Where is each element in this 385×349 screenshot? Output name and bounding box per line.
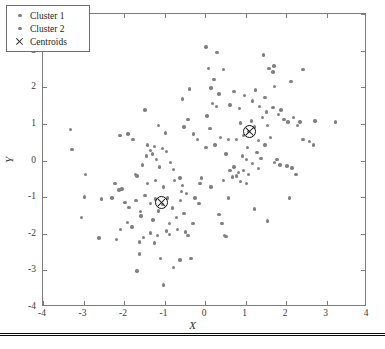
- data-point: [278, 163, 281, 166]
- data-point: [250, 119, 253, 122]
- data-point: [134, 199, 137, 202]
- data-point: [232, 165, 235, 168]
- data-point: [70, 148, 73, 151]
- data-point: [273, 161, 276, 164]
- x-tick: [286, 14, 287, 18]
- plot-area: [42, 13, 366, 306]
- x-tick: [327, 301, 328, 305]
- data-point: [215, 105, 218, 108]
- data-point: [181, 184, 184, 187]
- y-tick: [43, 87, 47, 88]
- data-point: [308, 140, 311, 143]
- data-point: [200, 176, 203, 179]
- data-point: [282, 118, 285, 121]
- data-point: [162, 283, 165, 286]
- y-tick: [361, 161, 365, 162]
- x-tick-label: 0: [202, 308, 207, 318]
- data-point: [135, 269, 138, 272]
- x-tick-label: 1: [242, 308, 247, 318]
- data-point: [239, 180, 242, 183]
- data-point: [165, 229, 168, 232]
- y-tick: [43, 124, 47, 125]
- data-point: [153, 145, 156, 148]
- y-tick: [43, 270, 47, 271]
- data-point: [196, 138, 199, 141]
- y-tick-label: -4: [14, 301, 36, 311]
- y-axis-label: Y: [3, 157, 15, 163]
- legend: Cluster 1 Cluster 2 Centroids: [6, 5, 90, 52]
- data-point: [182, 125, 185, 128]
- x-tick: [84, 301, 85, 305]
- x-tick: [124, 14, 125, 18]
- data-point: [84, 173, 87, 176]
- data-point: [262, 53, 265, 56]
- x-tick-label: 2: [283, 308, 288, 318]
- data-point: [184, 230, 187, 233]
- x-tick-label: -2: [119, 308, 127, 318]
- data-point: [301, 138, 304, 141]
- data-point: [263, 96, 266, 99]
- x-tick: [327, 14, 328, 18]
- data-point: [224, 235, 227, 238]
- data-point: [69, 128, 72, 131]
- data-point: [162, 185, 165, 188]
- data-point: [186, 234, 189, 237]
- data-point: [208, 127, 211, 130]
- data-point: [119, 228, 122, 231]
- data-point: [138, 240, 141, 243]
- data-point: [178, 176, 181, 179]
- data-point: [171, 206, 174, 209]
- data-point: [258, 105, 261, 108]
- cluster-2-marker-icon: [10, 22, 30, 35]
- legend-label-cluster-1: Cluster 1: [30, 11, 65, 21]
- y-tick-label: 0: [14, 155, 36, 165]
- data-point: [191, 222, 194, 225]
- data-point: [286, 120, 289, 123]
- data-point: [146, 143, 149, 146]
- data-point: [197, 202, 200, 205]
- data-point: [131, 138, 134, 141]
- data-point: [266, 124, 269, 127]
- data-point: [180, 190, 183, 193]
- data-point: [290, 166, 293, 169]
- data-point: [273, 85, 276, 88]
- bottom-divider: [0, 333, 385, 336]
- x-tick: [205, 14, 206, 18]
- data-point: [143, 194, 146, 197]
- data-point: [275, 158, 278, 161]
- data-point: [228, 169, 231, 172]
- data-point: [158, 165, 161, 168]
- data-point: [272, 64, 275, 67]
- data-point: [181, 97, 184, 100]
- data-point: [219, 136, 222, 139]
- data-point: [145, 154, 148, 157]
- data-point: [224, 152, 227, 155]
- y-tick: [43, 197, 47, 198]
- data-point: [172, 168, 175, 171]
- data-point: [292, 116, 295, 119]
- data-point: [238, 107, 241, 110]
- centroid-marker: [243, 125, 256, 138]
- y-tick: [43, 234, 47, 235]
- data-point: [279, 108, 282, 111]
- data-point: [83, 195, 86, 198]
- data-point: [241, 154, 244, 157]
- data-point: [126, 221, 129, 224]
- y-tick-label: -3: [14, 264, 36, 274]
- data-point: [220, 222, 223, 225]
- x-tick: [205, 301, 206, 305]
- data-point: [155, 158, 158, 161]
- data-point: [301, 68, 304, 71]
- data-point: [277, 113, 280, 116]
- data-point: [153, 241, 156, 244]
- data-point: [261, 116, 264, 119]
- x-tick: [43, 301, 44, 305]
- data-point: [217, 92, 220, 95]
- y-tick: [361, 234, 365, 235]
- data-point: [243, 94, 246, 97]
- data-point: [235, 174, 238, 177]
- data-point: [257, 167, 260, 170]
- data-point: [271, 106, 274, 109]
- legend-item-centroids: Centroids: [10, 35, 85, 48]
- data-point: [231, 175, 234, 178]
